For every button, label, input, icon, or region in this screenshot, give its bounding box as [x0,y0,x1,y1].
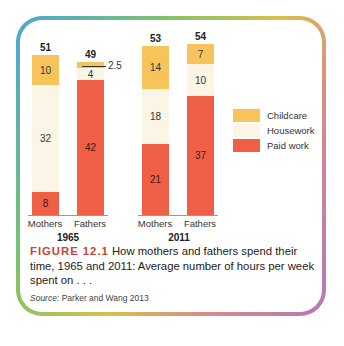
seg-childcare: 10 [32,55,59,85]
figure-caption: FIGURE 12.1 How mothers and fathers spen… [30,244,320,288]
seg-housework: 32 [32,85,59,192]
seg-childcare: 7 [187,44,214,64]
seg-housework: 10 [187,64,214,96]
total-mothers-1965: 51 [32,42,59,53]
total-fathers-1965: 49 [77,49,104,60]
source-note: Source: Parker and Wang 2013 [30,293,149,303]
legend-label: Childcare [267,110,307,121]
xlabel-mothers-1965: Mothers [22,218,68,229]
xlabel-fathers-2011: Fathers [177,218,223,229]
bar-mothers-2011: 14 18 21 [142,46,169,215]
baseline-2011 [138,215,218,216]
group-label-1965: 1965 [38,232,98,243]
xlabel-fathers-1965: Fathers [67,218,113,229]
total-fathers-2011: 54 [187,31,214,42]
swatch-childcare [233,109,260,122]
baseline-1965 [28,215,108,216]
seg-paid-work: 21 [142,144,169,215]
bar-fathers-2011: 7 10 37 [187,44,214,215]
total-mothers-2011: 53 [142,33,169,44]
xlabel-mothers-2011: Mothers [132,218,178,229]
callout-line [82,66,106,67]
source-label: Source: [30,293,59,303]
legend-childcare: Childcare [233,109,307,122]
source-text: Parker and Wang 2013 [62,293,149,303]
swatch-paid-work [233,139,260,152]
bar-mothers-1965: 10 32 8 [32,55,59,215]
seg-housework: 18 [142,89,169,144]
swatch-housework [233,124,260,137]
group-label-2011: 2011 [149,232,209,243]
figure-label: FIGURE 12.1 [30,245,109,257]
seg-housework: 4 [77,68,104,80]
legend-label: Paid work [267,140,309,151]
seg-paid-work: 37 [187,96,214,215]
legend-paid-work: Paid work [233,139,309,152]
seg-childcare: 14 [142,46,169,89]
seg-paid-work: 42 [77,80,104,215]
callout-label: 2.5 [108,60,122,71]
legend-label: Housework [267,125,315,136]
bar-fathers-1965: 4 42 [77,62,104,215]
legend-housework: Housework [233,124,315,137]
seg-paid-work: 8 [32,192,59,215]
